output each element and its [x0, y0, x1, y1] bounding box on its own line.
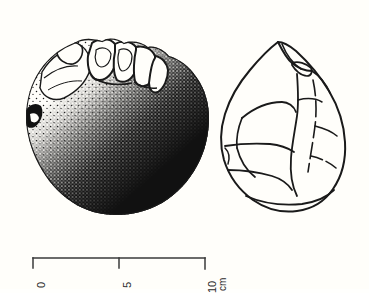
scar-mid-left [225, 144, 294, 152]
scar-right-top [298, 99, 322, 102]
central-arris [291, 74, 298, 196]
scar-upper-left [242, 102, 296, 118]
scar-right-lower [311, 156, 336, 168]
scar-right-upper [315, 126, 337, 136]
artifact-left-view [14, 34, 216, 220]
artifact-right-view [212, 36, 352, 220]
scale-label-0: 0 [36, 282, 47, 288]
scale-label-5: 5 [122, 282, 133, 288]
artifact-left-body [14, 34, 216, 220]
scale-unit-label: cm [218, 278, 228, 291]
